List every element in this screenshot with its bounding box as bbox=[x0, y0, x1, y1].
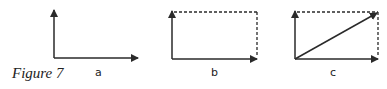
resultant-diagonal-arrow bbox=[295, 13, 377, 59]
panel-label-a: a bbox=[95, 66, 102, 79]
panel-c bbox=[295, 11, 378, 59]
panel-label-b: b bbox=[211, 66, 218, 79]
panel-b bbox=[172, 11, 257, 59]
panel-a bbox=[54, 10, 138, 58]
panel-label-c: c bbox=[330, 66, 336, 79]
figure-caption: Figure 7 bbox=[12, 65, 64, 82]
